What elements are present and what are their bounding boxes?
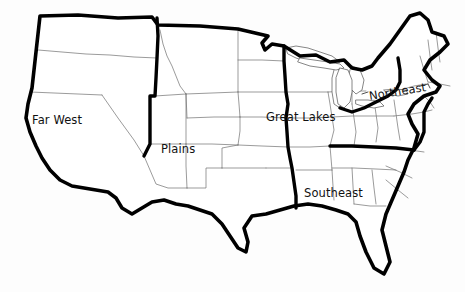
region-label-southeast: Southeast (304, 187, 363, 199)
region-label-great-lakes: Great Lakes (266, 111, 336, 123)
region-label-far-west: Far West (32, 114, 82, 126)
region-label-plains: Plains (161, 143, 195, 155)
us-regions-map: Far West Plains Great Lakes Northeast So… (0, 0, 465, 292)
map-graphic (0, 0, 465, 292)
